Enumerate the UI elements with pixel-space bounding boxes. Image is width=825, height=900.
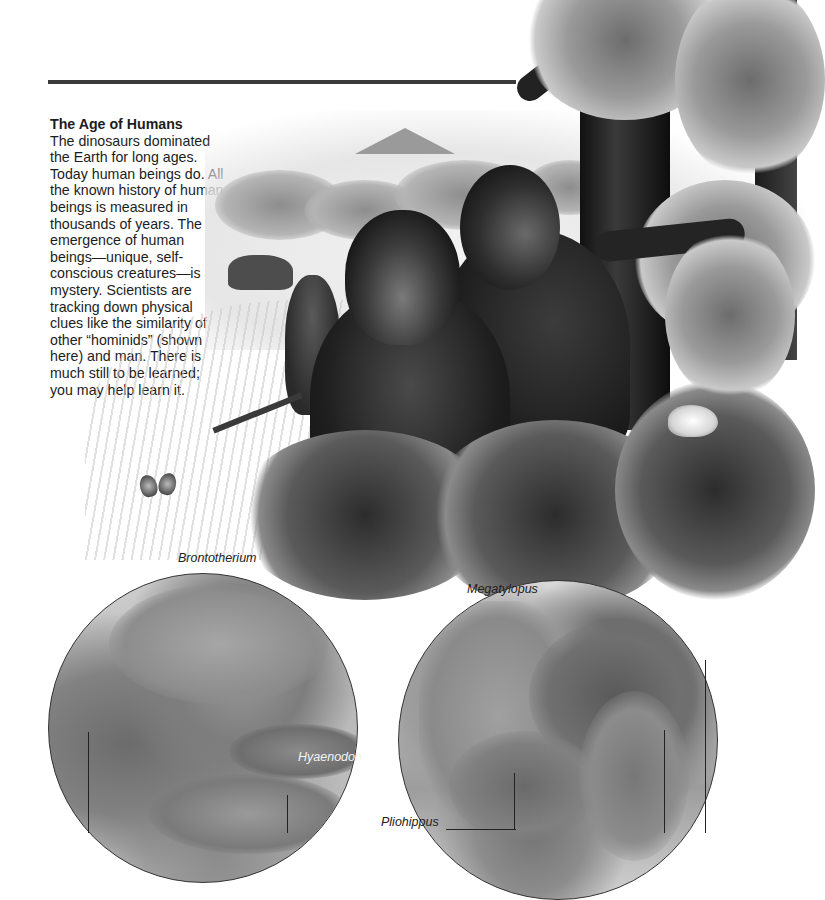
distant-mountain	[355, 128, 455, 154]
vignette-left	[48, 573, 358, 883]
leader-line	[514, 773, 515, 830]
label-megatylopus: Megatylopus	[467, 582, 538, 596]
hanging-foliage	[665, 230, 795, 400]
brontotherium-figure	[109, 584, 329, 704]
hominid-rear-head	[460, 165, 560, 290]
hominid-illustration	[195, 0, 797, 600]
label-hyaenodon: Hyaenodon	[298, 750, 362, 764]
label-pliohippus: Pliohippus	[381, 815, 439, 829]
vignette-right	[398, 580, 718, 900]
hominid-front-head	[345, 210, 460, 345]
white-bird	[668, 405, 718, 437]
label-brontotherium: Brontotherium	[178, 551, 257, 565]
leader-line	[664, 730, 665, 833]
pliohippus-figure	[449, 731, 599, 841]
antelope-figure	[579, 691, 689, 861]
elephant-herd	[228, 255, 293, 290]
leader-line	[705, 660, 706, 833]
leader-line	[88, 732, 89, 833]
butterfly	[140, 473, 178, 501]
bush-foliage	[615, 380, 815, 600]
lower-animal-figure	[149, 774, 349, 854]
leader-line	[446, 829, 516, 830]
leader-line	[287, 795, 288, 833]
